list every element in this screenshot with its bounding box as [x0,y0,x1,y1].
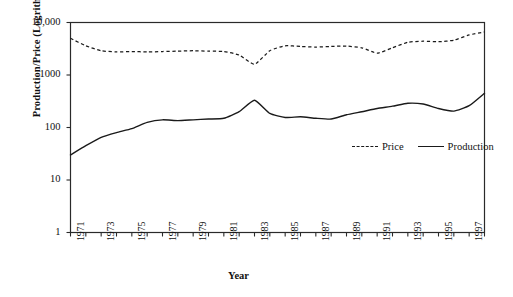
dashed-line-swatch-icon [352,146,378,148]
legend-label-production: Production [448,141,494,152]
x-tick-label: 1971 [75,221,86,240]
x-tick-label: 1979 [197,221,208,240]
x-tick-label: 1973 [105,221,116,240]
chart-legend: Price Production [352,141,494,152]
plot-frame [71,23,485,233]
chart-figure: Production/Price (Logrithmic) Year 10,00… [0,0,513,297]
x-tick-label: 1983 [259,221,270,240]
x-tick-label: 1985 [289,221,300,240]
y-tick-label: 10,000 [9,16,61,27]
x-axis-title: Year [228,270,249,281]
x-tick-label: 1987 [320,221,331,240]
x-tick-label: 1981 [228,221,239,240]
legend-item-price: Price [352,141,404,152]
x-tick-label: 1977 [167,221,178,240]
series-line-price [71,32,485,64]
legend-label-price: Price [382,141,404,152]
y-tick-label: 1 [9,226,61,237]
x-tick-label: 1997 [473,221,484,240]
legend-item-production: Production [418,141,494,152]
x-tick-label: 1993 [412,221,423,240]
x-tick-label: 1995 [443,221,454,240]
y-tick-label: 100 [9,121,61,132]
solid-line-swatch-icon [418,146,444,147]
y-tick-label: 1000 [9,68,61,79]
x-tick-label: 1991 [381,221,392,240]
y-tick-label: 10 [9,173,61,184]
x-tick-label: 1975 [136,221,147,240]
x-tick-label: 1989 [351,221,362,240]
